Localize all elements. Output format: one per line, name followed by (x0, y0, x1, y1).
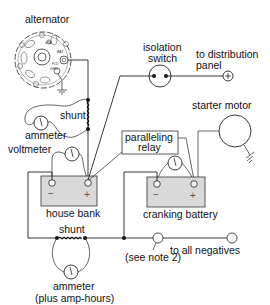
ammeter-top-label: ammeter (25, 129, 67, 141)
house-bank: − + house bank (41, 176, 101, 219)
alternator-bat-terminal (60, 56, 68, 64)
house-to-relay-wire (89, 152, 122, 180)
motor-icon (219, 115, 251, 147)
shunt-top-label: shunt (60, 109, 86, 121)
starter-motor: starter motor (192, 99, 254, 180)
ammeter-bottom-label-1: ammeter (53, 280, 95, 292)
distribution-label-2: panel (196, 59, 222, 71)
all-negatives-label: to all negatives (170, 244, 240, 256)
isolation-label-2: switch (148, 52, 177, 64)
cranking-negative-terminal (154, 181, 161, 188)
ammeter-bottom: ammeter (plus amp-hours) (35, 238, 114, 304)
negative-bus: shunt (see note 2) to all negatives (55, 223, 240, 263)
isolation-switch[interactable]: isolation switch (143, 41, 182, 87)
house-negative-terminal (49, 180, 56, 187)
svg-text:GND: GND (50, 67, 58, 71)
starter-motor-label: starter motor (192, 99, 252, 111)
house-to-isolation-wire (88, 76, 148, 180)
alternator-label: alternator (25, 13, 70, 25)
svg-text:−: − (153, 189, 159, 200)
house-positive-terminal (85, 180, 92, 187)
paralleling-relay: paralleling relay (122, 131, 178, 154)
ammeter-bottom-label-2: (plus amp-hours) (35, 292, 114, 304)
svg-text:FLD: FLD (52, 62, 59, 66)
voltmeter-label: voltmeter (8, 143, 52, 155)
cranking-positive-terminal (191, 181, 198, 188)
cranking-battery-label: cranking battery (143, 208, 218, 220)
svg-text:BAT: BAT (57, 50, 64, 54)
voltmeter-cranking (157, 156, 193, 180)
wiring-diagram: alternator BAT FLD STA GND (0, 0, 270, 305)
alternator: alternator BAT FLD STA GND (15, 13, 71, 88)
shunt-bottom-label: shunt (59, 223, 85, 235)
relay-label-2: relay (138, 141, 162, 153)
svg-text:−: − (48, 188, 54, 199)
svg-text:+: + (190, 190, 196, 201)
svg-text:+: + (84, 189, 90, 200)
note-2-terminal (153, 233, 163, 243)
cranking-battery: − + cranking battery (143, 177, 218, 220)
house-bank-label: house bank (46, 207, 101, 219)
svg-text:STA: STA (45, 41, 52, 45)
all-negatives-terminal (227, 233, 237, 243)
voltmeter-house: voltmeter (8, 143, 88, 180)
starter-ground-icon (244, 145, 254, 163)
